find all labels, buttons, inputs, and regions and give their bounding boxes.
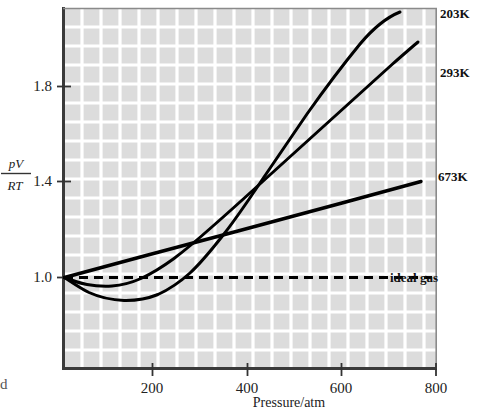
margin-stray-character: d bbox=[0, 376, 8, 392]
y-tick-label-1-8: 1.8 bbox=[33, 78, 52, 94]
y-axis-title-denominator: RT bbox=[6, 178, 23, 193]
curve-label-673k: 673K bbox=[438, 169, 469, 184]
curve-label-203k: 203K bbox=[440, 6, 471, 21]
curve-label-293k: 293K bbox=[440, 65, 471, 80]
chart-svg: 1.8 1.4 1.0 200 400 600 800 Pressure/atm… bbox=[0, 0, 485, 409]
x-tick-label-200: 200 bbox=[141, 380, 164, 396]
y-axis-title-numerator: pV bbox=[8, 156, 26, 171]
compression-factor-figure: 1.8 1.4 1.0 200 400 600 800 Pressure/atm… bbox=[0, 0, 485, 409]
x-tick-label-400: 400 bbox=[236, 380, 259, 396]
x-axis-title: Pressure/atm bbox=[253, 395, 325, 409]
x-tick-label-600: 600 bbox=[330, 380, 353, 396]
y-tick-label-1-0: 1.0 bbox=[33, 269, 52, 285]
y-tick-label-1-4: 1.4 bbox=[33, 173, 52, 189]
ideal-gas-label: ideal gas bbox=[390, 270, 438, 285]
x-tick-label-800: 800 bbox=[425, 380, 448, 396]
y-axis-title: pV RT bbox=[1, 156, 31, 193]
